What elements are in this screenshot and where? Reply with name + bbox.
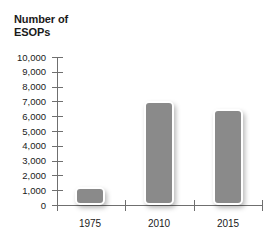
bar-2015 [213,109,243,205]
x-axis-tick [57,200,58,211]
bar-chart: Number of ESOPs 10,0009,0008,0007,0006,0… [0,0,274,246]
y-axis-tick [52,101,63,102]
x-axis-tick [194,200,195,211]
y-axis-tick [52,131,63,132]
bar-2010 [144,101,174,205]
y-axis-tick-label: 8,000 [0,82,46,91]
y-axis-tick-label: 5,000 [0,127,46,136]
y-axis-tick-label: 7,000 [0,97,46,106]
y-axis-tick-label: 2,000 [0,171,46,180]
y-axis-tick [52,116,63,117]
y-axis-tick [52,146,63,147]
y-axis-tick-label: 3,000 [0,156,46,165]
x-axis-tick-label-2015: 2015 [203,218,253,229]
y-axis-tick-label: 9,000 [0,67,46,76]
y-axis-tick [52,161,63,162]
y-axis-tick [52,57,63,58]
x-axis-tick [125,200,126,211]
y-axis-tick-label: 1,000 [0,186,46,195]
y-axis-tick [52,72,63,73]
x-axis-tick [262,200,263,211]
y-axis-tick [52,190,63,191]
y-axis-tick [52,87,63,88]
x-axis-tick-label-1975: 1975 [65,218,115,229]
y-axis-tick-label: 4,000 [0,141,46,150]
y-axis-tick [52,175,63,176]
y-axis-tick-label: 10,000 [0,53,46,62]
chart-title: Number of ESOPs [14,13,134,39]
chart-title-line-2: ESOPs [14,26,134,39]
x-axis-line [57,205,262,206]
y-axis-tick-label: 6,000 [0,112,46,121]
bar-1975 [75,187,105,205]
x-axis-tick-label-2010: 2010 [134,218,184,229]
y-axis-tick-label: 0 [0,201,46,210]
chart-title-line-1: Number of [14,13,134,26]
